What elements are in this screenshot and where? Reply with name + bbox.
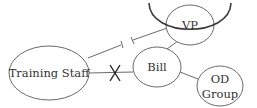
node-od-group-label-line2: Group xyxy=(202,87,238,101)
edge-bill-to-od-group xyxy=(180,72,198,79)
node-bill: Bill xyxy=(133,47,181,87)
node-od-group-label-line1: OD xyxy=(211,72,230,86)
break-mark-right xyxy=(131,37,134,44)
node-bill-label: Bill xyxy=(147,60,167,74)
edge-bill-to-vp xyxy=(167,41,178,49)
cut-x-icon xyxy=(110,65,120,81)
relationship-diagram: VP Training Staff Bill OD Group xyxy=(0,0,257,108)
node-od-group: OD Group xyxy=(197,66,243,106)
node-vp: VP xyxy=(166,5,214,45)
node-training-staff: Training Staff xyxy=(9,46,91,100)
edge-training-staff-to-bill xyxy=(89,65,133,81)
node-training-staff-label: Training Staff xyxy=(9,66,91,80)
break-mark-left xyxy=(121,41,123,48)
